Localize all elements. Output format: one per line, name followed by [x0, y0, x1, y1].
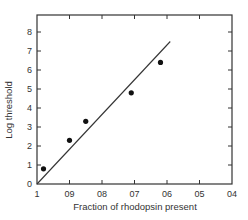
y-tick-label: 1	[27, 160, 32, 170]
x-tick-label: 04	[227, 189, 237, 199]
x-axis-label: Fraction of rhodopsin present	[73, 201, 197, 212]
y-tick-label: 8	[27, 27, 32, 37]
y-tick-label: 0	[27, 179, 32, 189]
y-tick-label: 4	[27, 103, 32, 113]
x-tick-label: 05	[194, 189, 204, 199]
data-series	[37, 42, 170, 185]
y-tick-label: 7	[27, 46, 32, 56]
y-tick-label: 3	[27, 122, 32, 132]
y-tick-label: 5	[27, 84, 32, 94]
fit-line	[37, 42, 170, 185]
data-point	[129, 90, 134, 95]
data-point	[83, 119, 88, 124]
y-tick-label: 2	[27, 141, 32, 151]
y-axis-ticks: 012345678	[27, 27, 232, 189]
x-tick-label: 09	[64, 189, 74, 199]
x-tick-label: 1	[34, 189, 39, 199]
x-tick-label: 07	[129, 189, 139, 199]
x-axis-ticks: 1090807060504	[34, 15, 237, 199]
chart: 012345678 1090807060504 Fraction of rhod…	[0, 0, 248, 220]
plot-frame	[37, 15, 232, 184]
y-tick-label: 6	[27, 65, 32, 75]
data-point	[41, 166, 46, 171]
x-tick-label: 06	[162, 189, 172, 199]
data-point	[67, 138, 72, 143]
y-axis-label: Log threshold	[3, 81, 14, 139]
data-point	[158, 60, 163, 65]
plot-border	[37, 15, 232, 184]
x-tick-label: 08	[97, 189, 107, 199]
